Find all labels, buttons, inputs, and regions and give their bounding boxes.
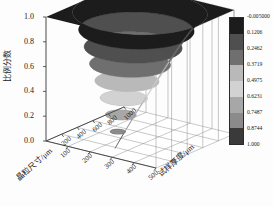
z-tick-4: 1000 xyxy=(123,107,138,122)
colorbar-tick-labels: -0.0050000.12060.24620.37190.49750.62310… xyxy=(245,0,273,207)
x-tick-0: 100 xyxy=(59,147,71,159)
y-tick-0: 0.0 xyxy=(24,137,34,145)
x-tick-2: 300 xyxy=(103,158,115,170)
colorbar-swatch-2 xyxy=(230,50,243,66)
y-axis-title: 比例分数 xyxy=(4,50,12,82)
colorbar-swatch-7 xyxy=(230,128,243,144)
y-tick-4: 0.8 xyxy=(24,38,34,46)
y-tick-5: 1.0 xyxy=(24,13,34,21)
colorbar-tick-7: 0.8744 xyxy=(247,126,262,132)
y-tick-1: 0.2 xyxy=(24,112,34,120)
z-tick-3: 800 xyxy=(107,115,119,127)
colorbar-swatch-1 xyxy=(230,34,243,50)
colorbar-tick-1: 0.1206 xyxy=(247,30,262,36)
z-tick-2: 600 xyxy=(91,122,103,134)
y-tick-3: 0.6 xyxy=(24,63,34,71)
colorbar-tick-5: 0.6231 xyxy=(247,94,262,100)
colorbar-swatch-6 xyxy=(230,113,243,129)
colorbar-tick-4: 0.4975 xyxy=(247,78,262,84)
colorbar xyxy=(229,17,244,145)
z-tick-1: 400 xyxy=(76,128,88,140)
colorbar-swatch-4 xyxy=(230,81,243,97)
colorbar-swatch-3 xyxy=(230,65,243,81)
colorbar-tick-8: 1.000 xyxy=(247,142,260,148)
colorbar-swatch-5 xyxy=(230,97,243,113)
colorbar-tick-2: 0.2462 xyxy=(247,46,262,52)
z-tick-0: 200 xyxy=(60,135,72,147)
colorbar-tick-3: 0.3719 xyxy=(247,62,262,68)
colorbar-tick-6: 0.7487 xyxy=(247,110,262,116)
figure-root: 0.00.20.40.60.81.0比例分数100200300400500晶粒尺… xyxy=(0,0,273,207)
colorbar-swatch-0 xyxy=(230,18,243,34)
colorbar-tick-0: -0.005000 xyxy=(247,14,270,20)
x-tick-1: 200 xyxy=(81,153,93,165)
x-tick-3: 400 xyxy=(125,164,137,176)
z-axis-title: 试样厚度/μm xyxy=(157,143,196,179)
x-axis-title: 晶粒尺寸/μm xyxy=(15,147,54,183)
y-tick-2: 0.4 xyxy=(24,87,34,95)
